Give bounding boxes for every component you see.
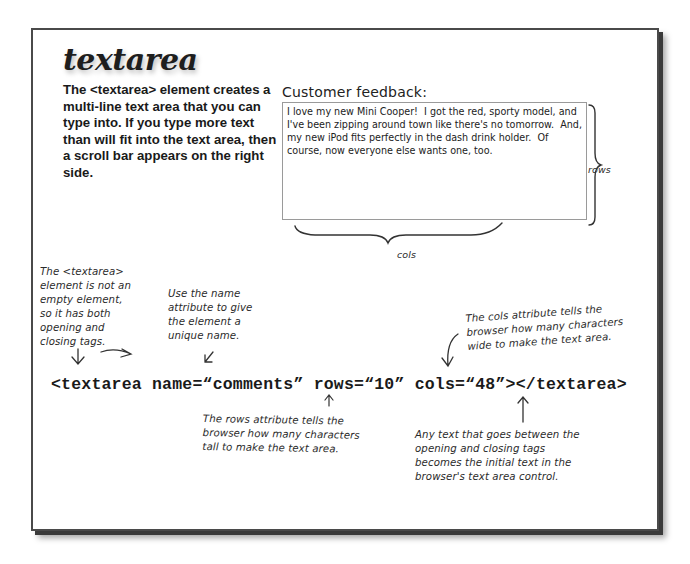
curved-arrow-icon <box>442 334 458 366</box>
right-arrow-icon <box>101 349 131 357</box>
textarea-code-example: <textarea name=“comments” rows=“10” cols… <box>51 375 627 394</box>
feedback-label: Customer feedback: <box>282 84 427 100</box>
rows-label: rows <box>588 163 611 177</box>
up-arrow-icon <box>325 395 333 406</box>
down-arrow-icon <box>72 349 84 364</box>
annotation-cols-attribute: The cols attribute tells the browser how… <box>465 301 628 354</box>
annotation-name-attribute: Use the name attribute to give the eleme… <box>168 287 268 343</box>
annotation-initial-text: Any text that goes between the opening a… <box>415 428 590 484</box>
cols-brace-icon <box>295 223 502 243</box>
up-arrow-icon <box>518 397 528 422</box>
annotation-not-empty: The <textarea> element is not an empty e… <box>40 265 135 349</box>
customer-feedback-textarea[interactable]: I love my new Mini Cooper! I got the red… <box>282 102 587 220</box>
cols-label: cols <box>397 248 416 262</box>
down-left-arrow-icon <box>205 352 213 362</box>
page-frame: textarea The <textarea> element creates … <box>31 28 659 531</box>
intro-text: The <textarea> element creates a multi-l… <box>63 82 278 182</box>
page-title: textarea <box>63 43 197 77</box>
annotation-rows-attribute: The rows attribute tells the browser how… <box>202 412 378 457</box>
